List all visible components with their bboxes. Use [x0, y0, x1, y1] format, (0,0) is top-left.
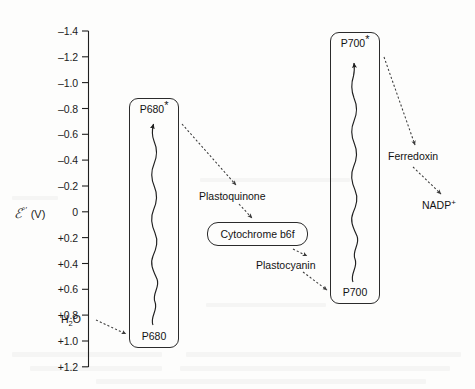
cytochrome-prefix: Cytochrome: [220, 228, 280, 240]
axis-tick-label: –0.8: [38, 103, 78, 115]
axis-title-symbol: ℰ: [14, 206, 22, 221]
photosystem-ii-box[interactable]: [129, 98, 179, 348]
ferredoxin-label: Ferredoxin: [388, 150, 438, 162]
axis-title-unit: (V): [31, 208, 46, 220]
p700-excited-label: P700*: [330, 37, 380, 49]
plastoquinone-label: Plastoquinone: [199, 190, 266, 202]
plastoquinone-text: Plastoquinone: [199, 190, 266, 202]
axis-tick-label: –0.2: [38, 180, 78, 192]
p700-ground-text: P700: [343, 286, 368, 298]
nadp-text: NADP: [422, 199, 451, 211]
plastocyanin-text: Plastocyanin: [256, 259, 316, 271]
p700-ground-label: P700: [330, 286, 380, 298]
p700-excited-text: P700: [341, 37, 366, 49]
axis-tick-label: –1.0: [38, 77, 78, 89]
plastocyanin-label: Plastocyanin: [256, 259, 316, 271]
cytochrome-b6f-label: Cytochrome b6f: [207, 228, 308, 240]
cytochrome-f: f: [292, 228, 295, 240]
axis-tick-label: +0.6: [38, 283, 78, 295]
nadp-charge: +: [451, 198, 456, 207]
p680-excited-star: *: [164, 99, 168, 111]
axis-tick-label: –0.6: [38, 128, 78, 140]
axis-tick-label: +0.4: [38, 258, 78, 270]
axis-tick-label: +1.0: [38, 335, 78, 347]
p680-excited-label: P680*: [129, 103, 179, 115]
p680-ground-text: P680: [142, 330, 167, 342]
water-label: H2O: [61, 313, 81, 325]
p700-excited-star: *: [365, 33, 369, 45]
nadp-label: NADP+: [422, 199, 456, 211]
axis-title: ℰ°′ (V): [14, 206, 45, 222]
z-scheme-figure: –1.4 –1.2 –1.0 –0.8 –0.6 –0.4 –0.2 0 +0.…: [0, 0, 475, 389]
axis-title-primes: °′: [22, 206, 28, 215]
water-o: O: [73, 313, 81, 325]
photosystem-i-box[interactable]: [330, 32, 380, 304]
axis-tick-label: –1.4: [38, 25, 78, 37]
axis-tick-label: –1.2: [38, 51, 78, 63]
water-h: H: [61, 313, 69, 325]
p680-excited-text: P680: [140, 103, 165, 115]
axis-tick-label: –0.4: [38, 154, 78, 166]
p680-ground-label: P680: [129, 330, 179, 342]
axis-tick-label: +1.2: [38, 361, 78, 373]
axis-tick-label: +0.2: [38, 232, 78, 244]
ferredoxin-text: Ferredoxin: [388, 150, 438, 162]
